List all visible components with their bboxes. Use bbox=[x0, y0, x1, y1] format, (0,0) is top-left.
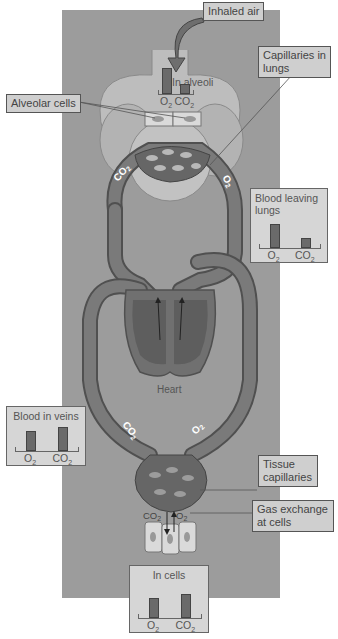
cells-o2-label: O2 bbox=[176, 510, 187, 522]
gas-bar-o2 bbox=[162, 68, 172, 94]
gas-bar-co2 bbox=[181, 594, 191, 618]
gas-label-co2: CO2 bbox=[175, 95, 195, 109]
gas-label-co2: CO2 bbox=[53, 452, 73, 466]
gas-bar-co2 bbox=[180, 84, 190, 94]
heart-label: Heart bbox=[157, 384, 182, 395]
gas-label-o2: O2 bbox=[24, 452, 36, 466]
gas-bar-co2 bbox=[58, 427, 68, 451]
gas-label-co2: CO2 bbox=[176, 619, 196, 633]
gas-label-o2: O2 bbox=[268, 249, 280, 263]
gas-bar-o2 bbox=[26, 431, 36, 451]
gas-label-co2: CO2 bbox=[295, 249, 315, 263]
gas-chart-blood-in-veins: Blood in veinsO2CO2 bbox=[6, 406, 86, 466]
gas-chart-blood-leaving-lungs: Blood leaving lungsO2CO2 bbox=[250, 188, 328, 263]
cells-co2-label: CO2 bbox=[143, 510, 161, 522]
gas-exchange-label: Gas exchange at cells bbox=[252, 500, 334, 532]
gas-chart-title: Blood leaving lungs bbox=[251, 189, 327, 216]
gas-chart-in-alveoli: In alveoliO2CO2 bbox=[150, 60, 202, 110]
tissue-capillaries-label: Tissue capillaries bbox=[258, 455, 318, 487]
gas-chart-title: In alveoli bbox=[172, 76, 213, 88]
gas-chart-title: In cells bbox=[130, 566, 208, 581]
tissue-o2-label: O2 bbox=[189, 420, 206, 437]
capillaries-in-lungs-label: Capillaries in lungs bbox=[258, 46, 331, 78]
gas-bar-o2 bbox=[270, 224, 280, 248]
gas-chart-in-cells: In cellsO2CO2 bbox=[129, 565, 209, 633]
alveolar-cells-label: Alveolar cells bbox=[6, 94, 81, 113]
alveolar-cells bbox=[145, 112, 201, 126]
heart bbox=[125, 290, 216, 376]
gas-label-o2: O2 bbox=[160, 95, 172, 109]
gas-bar-co2 bbox=[301, 238, 311, 248]
inhaled-air-label: Inhaled air bbox=[203, 2, 264, 21]
tissue-capillaries bbox=[135, 455, 207, 512]
gas-label-o2: O2 bbox=[147, 619, 159, 633]
gas-bar-o2 bbox=[149, 598, 159, 618]
gas-chart-title: Blood in veins bbox=[7, 407, 85, 422]
